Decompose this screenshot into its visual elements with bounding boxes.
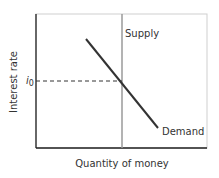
y-axis-label: Interest rate	[8, 51, 19, 113]
supply-label: Supply	[125, 28, 159, 39]
x-axis-label: Quantity of money	[75, 158, 169, 169]
demand-label: Demand	[162, 126, 204, 137]
money-market-chart: Supply Demand i0 Quantity of money Inter…	[0, 0, 219, 178]
y-tick-i0: i0	[26, 75, 34, 88]
